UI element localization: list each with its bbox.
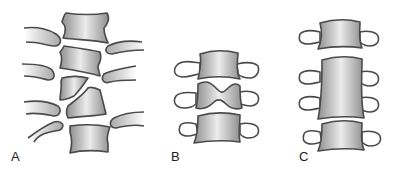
left-process (24, 27, 61, 46)
left-process (299, 97, 320, 110)
left-process (299, 71, 320, 84)
right-process (240, 91, 259, 106)
panel-b (174, 51, 258, 143)
right-process (106, 41, 144, 54)
right-process (360, 71, 379, 86)
panel-c (299, 20, 380, 151)
left-process (303, 131, 322, 144)
vertebral-body (318, 121, 364, 151)
vertebral-body (198, 51, 240, 79)
left-process (28, 122, 63, 142)
right-process (237, 63, 259, 78)
vertebrae-diagram (0, 0, 396, 171)
left-process (22, 64, 54, 80)
left-process (24, 101, 60, 116)
panel-label-b: B (171, 149, 180, 164)
right-process (360, 31, 379, 46)
left-process (175, 62, 200, 77)
right-process (102, 66, 136, 83)
vertebral-body (194, 113, 240, 143)
right-process (240, 123, 259, 138)
right-process (110, 112, 144, 128)
left-process (174, 92, 196, 108)
vertebral-body (62, 13, 108, 43)
vertebral-body (60, 46, 101, 76)
block-vertebra (318, 57, 364, 119)
left-process (299, 31, 320, 44)
vertebral-body (70, 125, 110, 153)
right-process (362, 131, 381, 146)
left-process (179, 123, 198, 136)
panel-a (22, 13, 144, 153)
panel-label-c: C (299, 149, 308, 164)
panel-label-a: A (11, 149, 20, 164)
butterfly-vertebra (196, 82, 242, 109)
vertebral-body (318, 20, 362, 49)
